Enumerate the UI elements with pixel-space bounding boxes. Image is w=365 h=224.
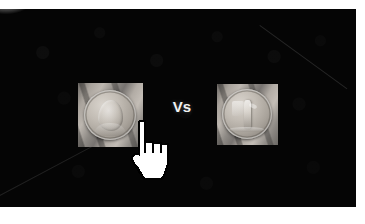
glare-streak-top-right bbox=[259, 25, 347, 89]
photo-corner-glow-bottom-left bbox=[0, 212, 30, 224]
coin-ground-motif bbox=[229, 127, 264, 132]
coin-relief-portrait bbox=[84, 90, 136, 140]
comparison-item-left[interactable] bbox=[78, 83, 143, 147]
coin-relief-standing-figure bbox=[222, 89, 272, 139]
versus-label: Vs bbox=[167, 98, 197, 116]
presentation-stage: Vs bbox=[0, 9, 356, 207]
coin-panel-motif bbox=[232, 101, 244, 116]
coin-disc-left bbox=[84, 90, 136, 140]
screenshot-canvas: Vs bbox=[0, 0, 365, 224]
coin-disc-right bbox=[222, 89, 272, 139]
coin-shoulder-motif bbox=[94, 123, 125, 136]
comparison-item-right[interactable] bbox=[217, 84, 278, 145]
